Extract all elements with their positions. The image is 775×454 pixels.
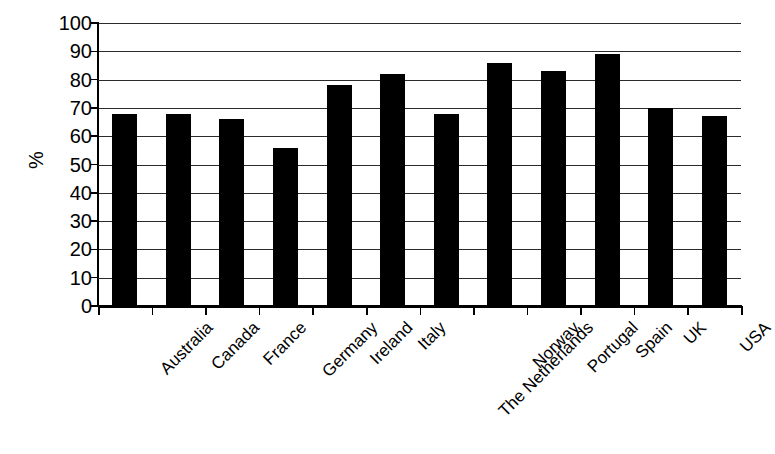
plot-area [98,23,741,306]
y-tick-label-10: 10 [40,268,92,288]
x-tick-label: Portugal [584,318,642,376]
y-tick-label-50: 50 [40,155,92,175]
bar [112,114,137,306]
x-tick-mark [152,306,154,315]
x-tick-mark [259,306,261,315]
y-tick-label-60: 60 [40,126,92,146]
x-tick-label: Germany [318,318,381,381]
bar [702,116,727,306]
x-tick-mark [741,306,743,315]
y-axis-tick-labels: 1009080706050403020100 [40,0,92,330]
bar-series [98,23,741,306]
x-tick-mark [634,306,636,315]
bar [648,108,673,306]
x-tick-mark [420,306,422,315]
bar [166,114,191,306]
x-tick-label: USA [736,318,774,356]
y-tick-label-90: 90 [40,41,92,61]
x-tick-label: France [259,318,310,369]
x-tick-label: Ireland [366,318,416,368]
y-tick-label-40: 40 [40,183,92,203]
x-tick-mark [687,306,689,315]
bar [273,148,298,306]
x-tick-label: Spain [632,318,676,362]
bar [541,71,566,306]
y-tick-label-100: 100 [40,13,92,33]
x-tick-label: Australia [156,318,216,378]
bar [219,119,244,306]
x-tick-label: Italy [414,318,449,353]
x-tick-mark [205,306,207,315]
x-tick-mark [98,306,100,315]
x-tick-label: Norway [529,318,583,372]
x-tick-mark [473,306,475,315]
x-tick-mark [580,306,582,315]
y-tick-label-0: 0 [40,296,92,316]
bar [327,85,352,306]
y-tick-label-20: 20 [40,239,92,259]
bar [380,74,405,306]
x-tick-label: Canada [208,318,264,374]
y-tick-label-80: 80 [40,70,92,90]
x-tick-label: UK [680,318,710,348]
x-tick-label: The Netherlands [495,318,597,420]
x-tick-mark [312,306,314,315]
bar [595,54,620,306]
x-tick-mark [527,306,529,315]
bar [487,63,512,306]
y-tick-label-70: 70 [40,98,92,118]
y-tick-label-30: 30 [40,211,92,231]
x-tick-mark [366,306,368,315]
bar [434,114,459,306]
